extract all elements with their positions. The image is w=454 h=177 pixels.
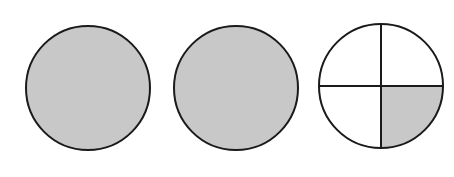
- quartered-circle: [319, 24, 443, 148]
- fraction-diagram: [0, 0, 454, 177]
- whole-circle-2: [174, 26, 298, 150]
- whole-circle-1: [26, 26, 150, 150]
